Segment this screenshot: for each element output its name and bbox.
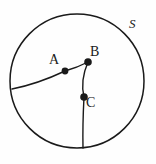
point-a-dot (62, 68, 69, 75)
geometry-figure: A B C S (0, 0, 156, 164)
point-a-label: A (49, 53, 59, 67)
segment-c-to-boundary (83, 97, 84, 148)
segment-b-to-c (83, 62, 88, 97)
arc-edge-to-a (12, 71, 65, 89)
point-b-dot (84, 58, 92, 66)
point-c-label: C (86, 96, 95, 110)
point-b-label: B (90, 45, 99, 59)
region-s-label: S (129, 17, 136, 30)
boundary-circle (10, 14, 144, 148)
